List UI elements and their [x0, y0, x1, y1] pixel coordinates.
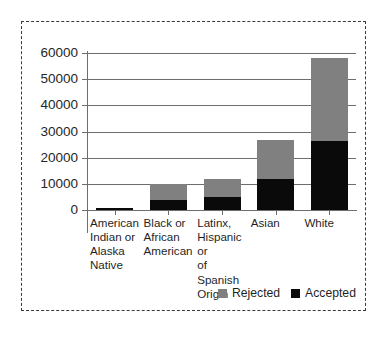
bar-segment-accepted[interactable]	[204, 197, 241, 210]
y-tick-label-10000: 10000	[40, 177, 78, 191]
legend-label: Accepted	[305, 286, 356, 300]
x-category-label: Asian	[251, 216, 303, 230]
legend-swatch-icon	[218, 289, 227, 298]
y-tick-mark-0	[82, 210, 88, 211]
y-tick-mark-20000	[82, 158, 88, 159]
x-category-label: White	[304, 216, 356, 230]
y-tick-label-40000: 40000	[40, 99, 78, 113]
figure-frame: 0100002000030000400005000060000 American…	[21, 21, 366, 311]
legend-item[interactable]: Accepted	[291, 286, 356, 300]
y-tick-mark-40000	[82, 105, 88, 106]
category-label-line: American	[144, 244, 196, 258]
bar-group[interactable]	[311, 58, 348, 210]
chart-legend: RejectedAccepted	[218, 286, 356, 300]
bar-group[interactable]	[257, 140, 294, 210]
category-label-line: Black or	[144, 216, 196, 230]
category-label-line: Native	[90, 258, 142, 272]
x-category-label: Black orAfricanAmerican	[144, 216, 196, 258]
x-axis-line	[82, 210, 357, 211]
category-label-line: Indian or	[90, 230, 142, 244]
y-tick-label-20000: 20000	[40, 151, 78, 165]
x-tick-mark	[115, 210, 116, 215]
bar-segment-rejected[interactable]	[204, 179, 241, 197]
bar-group[interactable]	[204, 179, 241, 210]
category-label-line: of Spanish	[197, 258, 249, 286]
x-tick-mark	[276, 210, 277, 215]
category-label-line: Hispanic or	[197, 230, 249, 258]
legend-item[interactable]: Rejected	[218, 286, 280, 300]
x-category-label: AmericanIndian orAlaskaNative	[90, 216, 142, 273]
category-label-line: Alaska	[90, 244, 142, 258]
category-label-line: American	[90, 216, 142, 230]
plot-area	[88, 53, 356, 210]
y-tick-label-30000: 30000	[40, 125, 78, 139]
y-tick-mark-30000	[82, 132, 88, 133]
bar-segment-accepted[interactable]	[150, 200, 187, 210]
y-tick-mark-50000	[82, 79, 88, 80]
bar-segment-accepted[interactable]	[311, 141, 348, 210]
legend-label: Rejected	[232, 286, 280, 300]
bar-segment-rejected[interactable]	[311, 58, 348, 141]
bar-group[interactable]	[150, 184, 187, 210]
y-tick-label-50000: 50000	[40, 72, 78, 86]
category-label-line: Latinx,	[197, 216, 249, 230]
y-tick-mark-10000	[82, 184, 88, 185]
x-tick-mark	[222, 210, 223, 215]
category-label-line: Asian	[251, 216, 303, 230]
y-axis-tick-labels: 0100002000030000400005000060000	[22, 22, 78, 242]
y-tick-mark-60000	[82, 53, 88, 54]
bar-segment-rejected[interactable]	[257, 140, 294, 180]
category-label-line: White	[304, 216, 356, 230]
bar-segment-rejected[interactable]	[150, 184, 187, 200]
x-tick-mark	[329, 210, 330, 215]
legend-swatch-icon	[291, 289, 300, 298]
x-tick-mark	[168, 210, 169, 215]
y-tick-label-0: 0	[70, 203, 78, 217]
y-tick-label-60000: 60000	[40, 46, 78, 60]
category-label-line: African	[144, 230, 196, 244]
bar-segment-accepted[interactable]	[257, 179, 294, 210]
gridline-60000	[88, 53, 356, 54]
